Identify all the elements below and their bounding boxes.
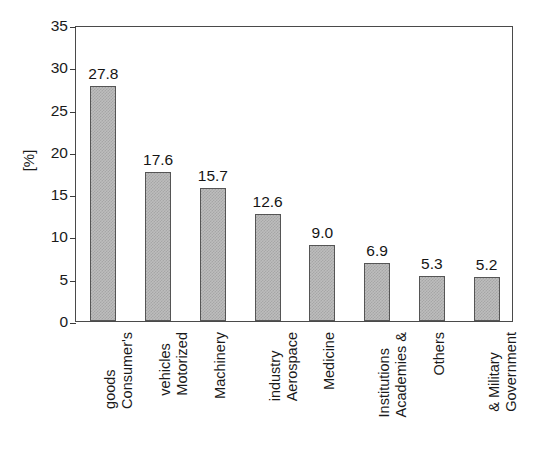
y-axis-tick-mark bbox=[70, 154, 76, 155]
x-axis-label-line: Machinery bbox=[212, 332, 229, 399]
bars-container: 27.817.615.712.69.06.95.35.2 bbox=[76, 27, 512, 321]
plot-area: 27.817.615.712.69.06.95.35.2 bbox=[75, 26, 513, 322]
bar-value-label: 6.9 bbox=[366, 243, 388, 259]
x-axis-label-line: & Military bbox=[486, 332, 503, 412]
x-axis-label-line: industry bbox=[267, 332, 284, 401]
y-axis-tick-label: 20 bbox=[36, 145, 68, 161]
bar-slot: 17.6 bbox=[131, 27, 186, 321]
x-axis-label-line: Institutions bbox=[376, 332, 393, 417]
bar-value-label: 5.2 bbox=[476, 257, 498, 273]
x-axis-label-slot: Consumer'sgoods bbox=[75, 322, 130, 452]
y-axis-tick-mark bbox=[70, 196, 76, 197]
bar bbox=[364, 263, 390, 321]
y-axis-tick-mark bbox=[70, 112, 76, 113]
bar-slot: 15.7 bbox=[186, 27, 241, 321]
y-axis-tick-label: 10 bbox=[36, 230, 68, 246]
bar bbox=[309, 245, 335, 321]
x-axis-label-slot: Government& Military bbox=[458, 322, 513, 452]
bar bbox=[145, 172, 171, 321]
y-axis-tick-labels: 05101520253035 bbox=[30, 0, 68, 452]
y-axis-tick-mark bbox=[70, 238, 76, 239]
x-axis-label-slot: Medicine bbox=[294, 322, 349, 452]
bar-value-label: 9.0 bbox=[312, 225, 334, 241]
bar-slot: 5.3 bbox=[405, 27, 460, 321]
bar-value-label: 17.6 bbox=[143, 152, 173, 168]
y-axis-tick-mark bbox=[70, 69, 76, 70]
bar bbox=[419, 276, 445, 321]
bar-slot: 12.6 bbox=[240, 27, 295, 321]
y-axis-tick-label: 5 bbox=[36, 272, 68, 288]
y-axis-tick-label: 35 bbox=[36, 18, 68, 34]
bar bbox=[200, 188, 226, 321]
y-axis-tick-label: 30 bbox=[36, 61, 68, 77]
x-axis-label-line: goods bbox=[102, 332, 119, 409]
y-axis-tick-mark bbox=[70, 281, 76, 282]
x-axis-label-line: Others bbox=[431, 332, 448, 376]
bar-value-label: 12.6 bbox=[253, 194, 283, 210]
bar-chart: [%] 05101520253035 27.817.615.712.69.06.… bbox=[0, 0, 541, 452]
bar-slot: 27.8 bbox=[76, 27, 131, 321]
x-axis-label-slot: Academies &Institutions bbox=[349, 322, 404, 452]
x-axis-label-line: Medicine bbox=[321, 332, 338, 390]
x-axis-label-line: Government bbox=[503, 332, 520, 412]
bar bbox=[90, 86, 116, 321]
y-axis-tick-label: 15 bbox=[36, 187, 68, 203]
x-axis-category-labels: Consumer'sgoodsMotorizedvehiclesMachiner… bbox=[75, 322, 513, 452]
x-axis-label-slot: Others bbox=[404, 322, 459, 452]
y-axis-tick-label: 25 bbox=[36, 103, 68, 119]
bar-value-label: 27.8 bbox=[88, 66, 118, 82]
x-axis-label-slot: Aerospaceindustry bbox=[239, 322, 294, 452]
bar-value-label: 5.3 bbox=[421, 256, 443, 272]
y-axis-tick-mark bbox=[70, 27, 76, 28]
y-axis-tick-label: 0 bbox=[36, 314, 68, 330]
bar bbox=[474, 277, 500, 321]
bar-slot: 6.9 bbox=[350, 27, 405, 321]
bar-value-label: 15.7 bbox=[198, 168, 228, 184]
bar-slot: 5.2 bbox=[459, 27, 514, 321]
bar-slot: 9.0 bbox=[295, 27, 350, 321]
bar bbox=[255, 214, 281, 321]
x-axis-label-slot: Motorizedvehicles bbox=[130, 322, 185, 452]
x-axis-label-line: vehicles bbox=[157, 332, 174, 396]
x-axis-label-slot: Machinery bbox=[185, 322, 240, 452]
